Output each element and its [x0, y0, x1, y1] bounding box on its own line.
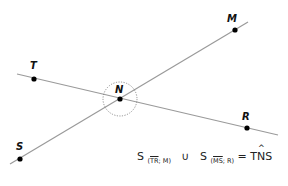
geometry-diagram: M T N R S S (TR; M) ∪ S (MS; R) = TNS [0, 0, 288, 186]
half-plane-2: S [200, 150, 207, 163]
equals-sign: = [238, 150, 247, 163]
formula: S (TR; M) ∪ S (MS; R) = TNS [137, 150, 272, 165]
subscript-2: (MS; R) [210, 157, 234, 165]
point-S: S [16, 141, 23, 162]
label-N: N [115, 84, 124, 95]
label-S: S [16, 141, 23, 152]
label-R: R [242, 111, 250, 122]
half-plane-1: S [137, 150, 144, 163]
point-M: M [227, 13, 238, 33]
point-R: R [242, 111, 250, 131]
angle-TNS: TNS [250, 150, 272, 163]
union-symbol: ∪ [181, 150, 189, 163]
label-M: M [227, 13, 237, 24]
label-T: T [30, 60, 38, 71]
subscript-1: (TR; M) [147, 157, 170, 165]
line-sm [10, 22, 248, 164]
line-tr [17, 74, 278, 135]
